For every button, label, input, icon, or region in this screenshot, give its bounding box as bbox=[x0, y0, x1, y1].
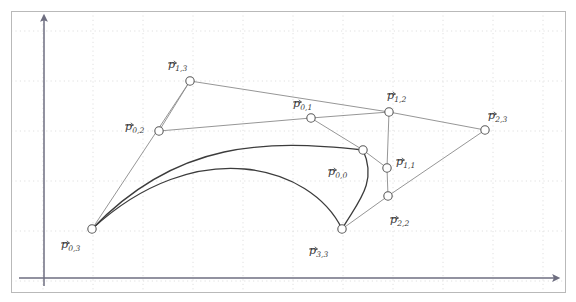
control-point-p02[interactable] bbox=[155, 127, 163, 135]
point-label-symbol-p13: p bbox=[168, 59, 175, 70]
point-label-subscript: 2,3 bbox=[495, 115, 507, 124]
control-net-edge bbox=[159, 81, 190, 131]
control-point-p12[interactable] bbox=[385, 108, 393, 116]
control-point-p01[interactable] bbox=[307, 114, 315, 122]
point-label-symbol-p02: p bbox=[125, 121, 132, 132]
point-label-p01: p0,1 bbox=[293, 98, 312, 111]
bezier-curve-curve-top bbox=[92, 145, 363, 229]
point-label-symbol-p23: p bbox=[488, 110, 495, 121]
point-label-p13: p1,3 bbox=[168, 59, 187, 72]
point-label-p00: p0,0 bbox=[328, 166, 347, 179]
control-net-layer bbox=[92, 81, 485, 229]
control-point-p13[interactable] bbox=[186, 77, 194, 85]
point-label-letter: p bbox=[396, 155, 403, 168]
control-net-edge bbox=[311, 112, 389, 118]
control-net-edge bbox=[342, 196, 388, 229]
point-label-letter: p bbox=[125, 120, 132, 133]
control-net-edge bbox=[311, 118, 363, 150]
point-label-letter: p bbox=[387, 89, 394, 102]
control-point-layer bbox=[88, 77, 489, 233]
control-point-p00[interactable] bbox=[359, 146, 367, 154]
point-label-subscript: 0,1 bbox=[300, 103, 312, 112]
point-label-p12: p1,2 bbox=[387, 90, 406, 103]
point-label-p03: p0,3 bbox=[61, 239, 80, 252]
control-net-edge bbox=[190, 81, 389, 112]
point-label-letter: p bbox=[61, 238, 68, 251]
control-point-p03[interactable] bbox=[88, 225, 96, 233]
point-label-subscript: 0,0 bbox=[335, 171, 347, 180]
point-label-symbol-p11: p bbox=[396, 156, 403, 167]
point-label-p22: p2,2 bbox=[390, 214, 409, 227]
point-label-subscript: 0,3 bbox=[68, 244, 80, 253]
control-net-edge bbox=[159, 118, 311, 131]
point-label-letter: p bbox=[328, 165, 335, 178]
point-label-symbol-p12: p bbox=[387, 90, 394, 101]
bezier-curve-curve-bottom bbox=[342, 150, 368, 229]
point-label-p33: p3,3 bbox=[309, 245, 328, 258]
control-point-p23[interactable] bbox=[481, 126, 489, 134]
point-label-p23: p2,3 bbox=[488, 110, 507, 123]
bezier-curve-layer bbox=[92, 145, 368, 229]
point-label-letter: p bbox=[309, 244, 316, 257]
bezier-curve-curve-left bbox=[92, 168, 342, 229]
point-label-subscript: 0,2 bbox=[132, 126, 144, 135]
control-net-edge bbox=[389, 112, 485, 130]
point-label-symbol-p01: p bbox=[293, 98, 300, 109]
control-point-p22[interactable] bbox=[384, 192, 392, 200]
point-label-letter: p bbox=[168, 58, 175, 71]
point-label-symbol-p00: p bbox=[328, 166, 335, 177]
control-net-edge bbox=[92, 81, 190, 229]
point-label-subscript: 3,3 bbox=[316, 250, 328, 259]
point-label-symbol-p03: p bbox=[61, 239, 68, 250]
point-label-subscript: 1,2 bbox=[394, 95, 406, 104]
point-label-p02: p0,2 bbox=[125, 121, 144, 134]
figure-canvas bbox=[0, 0, 576, 302]
plot-frame bbox=[12, 12, 566, 293]
point-label-symbol-p22: p bbox=[390, 214, 397, 225]
point-label-subscript: 1,3 bbox=[175, 64, 187, 73]
bezier-control-net-figure: p0,3p0,2p1,3p0,1p1,2p2,3p0,0p1,1p2,2p3,3 bbox=[0, 0, 576, 302]
control-net-edge bbox=[387, 112, 389, 168]
point-label-letter: p bbox=[488, 109, 495, 122]
axis-layer bbox=[19, 17, 557, 286]
point-label-symbol-p33: p bbox=[309, 245, 316, 256]
control-point-p33[interactable] bbox=[338, 225, 346, 233]
point-label-letter: p bbox=[293, 97, 300, 110]
point-label-letter: p bbox=[390, 213, 397, 226]
point-label-p11: p1,1 bbox=[396, 156, 415, 169]
control-point-p11[interactable] bbox=[383, 164, 391, 172]
point-label-subscript: 2,2 bbox=[397, 219, 409, 228]
point-label-subscript: 1,1 bbox=[403, 161, 415, 170]
grid-layer bbox=[11, 11, 565, 292]
